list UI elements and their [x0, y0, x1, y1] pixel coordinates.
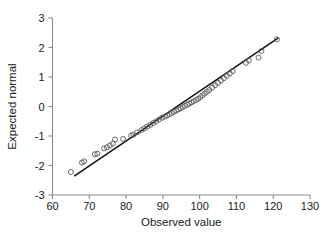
x-tick-label: 130: [301, 200, 319, 212]
y-axis-tick-labels: -3-2-10123: [35, 12, 45, 201]
y-tick-label: 2: [38, 42, 44, 54]
y-tick-label: -1: [35, 130, 45, 142]
y-axis-ticks: [49, 18, 53, 195]
y-tick-label: 1: [38, 71, 44, 83]
data-point: [256, 55, 261, 60]
y-axis-title: Expected normal: [6, 63, 18, 149]
plot-canvas: -3-2-10123 60708090100110120130 Observed…: [0, 0, 330, 237]
x-tick-label: 100: [190, 200, 208, 212]
axis-group: [49, 18, 311, 199]
x-tick-label: 60: [46, 200, 58, 212]
y-tick-label: -3: [35, 189, 45, 201]
y-tick-label: 0: [38, 101, 44, 113]
x-tick-label: 80: [120, 200, 132, 212]
x-tick-label: 90: [157, 200, 169, 212]
y-tick-label: 3: [38, 12, 44, 24]
x-tick-label: 120: [264, 200, 282, 212]
data-layer: [68, 37, 279, 176]
qq-plot-figure: -3-2-10123 60708090100110120130 Observed…: [0, 0, 330, 237]
data-point: [68, 169, 73, 174]
x-axis-ticks: [53, 195, 311, 199]
x-axis-tick-labels: 60708090100110120130: [46, 200, 319, 212]
data-point: [113, 137, 118, 142]
data-point-markers: [68, 37, 279, 175]
x-tick-label: 110: [228, 200, 246, 212]
data-point: [102, 146, 107, 151]
y-tick-label: -2: [35, 160, 45, 172]
data-point: [121, 136, 126, 141]
x-tick-label: 70: [83, 200, 95, 212]
x-axis-title: Observed value: [141, 216, 222, 228]
